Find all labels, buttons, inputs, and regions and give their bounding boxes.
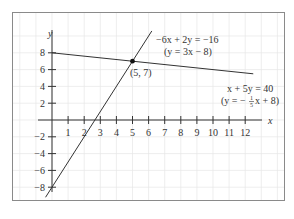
svg-text:1: 1: [66, 127, 71, 138]
svg-text:x + 8): x + 8): [255, 95, 279, 107]
equation-1: −6x + 2y = −16: [156, 34, 219, 45]
svg-text:2: 2: [40, 98, 45, 109]
equation-1-slope-form: (y = 3x − 8): [164, 46, 212, 58]
svg-text:10: 10: [208, 127, 218, 138]
chart-canvas: 1234567891011128642−2−4−6−8 y x (5, 7) −…: [0, 0, 294, 219]
svg-text:4: 4: [40, 81, 45, 92]
svg-text:1: 1: [250, 95, 253, 101]
intersection-label: (5, 7): [130, 67, 152, 79]
svg-text:11: 11: [224, 127, 234, 138]
svg-text:6: 6: [146, 127, 151, 138]
svg-text:4: 4: [114, 127, 119, 138]
svg-text:−2: −2: [34, 131, 45, 142]
equation-2: x + 5y = 40: [227, 83, 273, 94]
svg-text:5: 5: [130, 127, 135, 138]
svg-text:3: 3: [98, 127, 103, 138]
svg-text:−6: −6: [34, 165, 45, 176]
svg-text:9: 9: [194, 127, 199, 138]
x-axis-label: x: [267, 115, 273, 126]
svg-text:12: 12: [240, 127, 250, 138]
svg-text:(y = −: (y = −: [221, 95, 246, 107]
svg-text:8: 8: [178, 127, 183, 138]
intersection-point: [130, 59, 135, 64]
svg-text:−4: −4: [34, 148, 45, 159]
svg-text:7: 7: [162, 127, 167, 138]
y-axis-label: y: [47, 28, 53, 39]
svg-text:−8: −8: [34, 182, 45, 193]
svg-text:6: 6: [40, 64, 45, 75]
svg-text:5: 5: [250, 102, 253, 108]
svg-text:8: 8: [40, 47, 45, 58]
